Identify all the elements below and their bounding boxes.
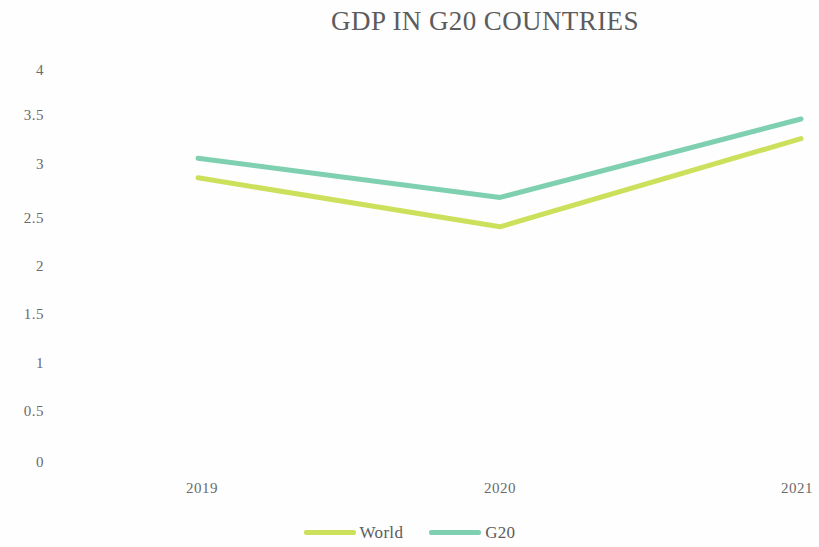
x-axis-tick-2019: 2019 [157, 481, 247, 496]
plot-svg [0, 0, 819, 547]
y-axis-tick-2: 2 [0, 259, 44, 274]
y-axis-tick-0: 0 [0, 455, 44, 470]
y-axis-tick-3-5: 3.5 [0, 108, 44, 123]
legend-entry-world[interactable]: World [304, 524, 404, 541]
y-axis-tick-2-5: 2.5 [0, 211, 44, 226]
legend-swatch-g20-icon [429, 530, 481, 535]
y-axis-tick-4: 4 [0, 63, 44, 78]
y-axis-tick-1-5: 1.5 [0, 307, 44, 322]
chart-legend: World G20 [0, 524, 819, 541]
legend-label-g20: G20 [485, 524, 515, 541]
chart-title: GDP IN G20 COUNTRIES [0, 6, 819, 37]
y-axis-tick-3: 3 [0, 157, 44, 172]
plot-area [0, 0, 819, 547]
y-axis-tick-0-5: 0.5 [0, 404, 44, 419]
legend-label-world: World [360, 524, 404, 541]
y-axis-tick-1: 1 [0, 356, 44, 371]
gdp-line-chart: GDP IN G20 COUNTRIES 4 3.5 3 2.5 2 1.5 1… [0, 0, 819, 547]
x-axis-tick-2020: 2020 [455, 481, 545, 496]
legend-swatch-world-icon [304, 530, 356, 535]
series-line-world [198, 139, 801, 227]
x-axis-tick-2021: 2021 [752, 481, 819, 496]
legend-entry-g20[interactable]: G20 [429, 524, 515, 541]
series-line-g20 [198, 119, 801, 197]
